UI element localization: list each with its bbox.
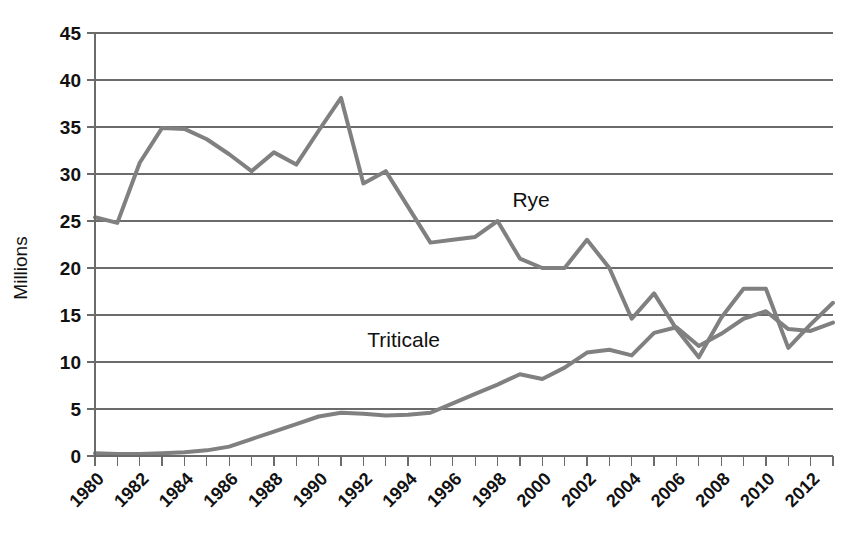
y-tick-label: 0 xyxy=(70,446,81,467)
y-tick-label: 35 xyxy=(60,117,82,138)
chart-background xyxy=(0,0,856,540)
y-tick-label: 15 xyxy=(60,305,82,326)
y-tick-label: 30 xyxy=(60,164,81,185)
series-label-triticale: Triticale xyxy=(367,328,440,351)
y-tick-label: 20 xyxy=(60,258,81,279)
y-tick-label: 10 xyxy=(60,352,81,373)
y-tick-label: 25 xyxy=(60,211,82,232)
y-axis-title: Millions xyxy=(10,236,31,299)
y-tick-label: 45 xyxy=(60,23,82,44)
chart-container: 051015202530354045 198019821984198619881… xyxy=(0,0,856,540)
series-label-rye: Rye xyxy=(512,188,549,211)
line-chart: 051015202530354045 198019821984198619881… xyxy=(0,0,856,540)
y-tick-label: 40 xyxy=(60,70,81,91)
y-tick-label: 5 xyxy=(70,399,81,420)
